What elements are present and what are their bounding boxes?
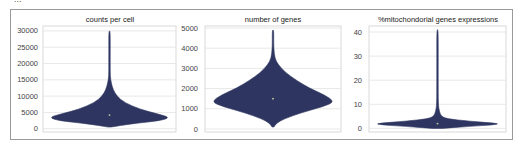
y-tick-label: 5000 [181, 24, 198, 33]
y-tick-label: 2000 [181, 84, 198, 93]
y-tick-label: 10 [354, 100, 362, 109]
y-tick-label: 0 [194, 125, 198, 134]
panel-counts-per-cell: 050001000015000200002500030000counts per… [17, 15, 176, 133]
y-tick-label: 10000 [17, 92, 38, 101]
y-tick-label: 4000 [181, 44, 198, 53]
y-tick-label: 20 [354, 76, 362, 85]
y-tick-label: 1000 [181, 104, 198, 113]
y-tick-label: 15000 [17, 75, 38, 84]
y-tick-label: 0 [34, 124, 38, 133]
panel-title: counts per cell [86, 15, 135, 24]
y-tick-label: 25000 [17, 43, 38, 52]
panel-title: number of genes [245, 15, 302, 24]
y-tick-label: 20000 [17, 59, 38, 68]
panel-title: %mitochondorial genes expressions [378, 15, 498, 24]
violin-figure: 050001000015000200002500030000counts per… [0, 0, 524, 146]
y-tick-label: 30 [354, 52, 362, 61]
y-tick-label: 3000 [181, 64, 198, 73]
panel-mito-percent: 010203040%mitochondorial genes expressio… [354, 15, 506, 133]
y-tick-label: 30000 [17, 26, 38, 35]
panel-number-of-genes: 010002000300040005000number of genes [181, 15, 341, 134]
median-marker [109, 114, 111, 116]
median-marker [437, 123, 439, 125]
y-tick-label: 0 [358, 124, 362, 133]
y-tick-label: 40 [354, 28, 362, 37]
median-marker [272, 98, 274, 100]
y-tick-label: 5000 [21, 108, 38, 117]
